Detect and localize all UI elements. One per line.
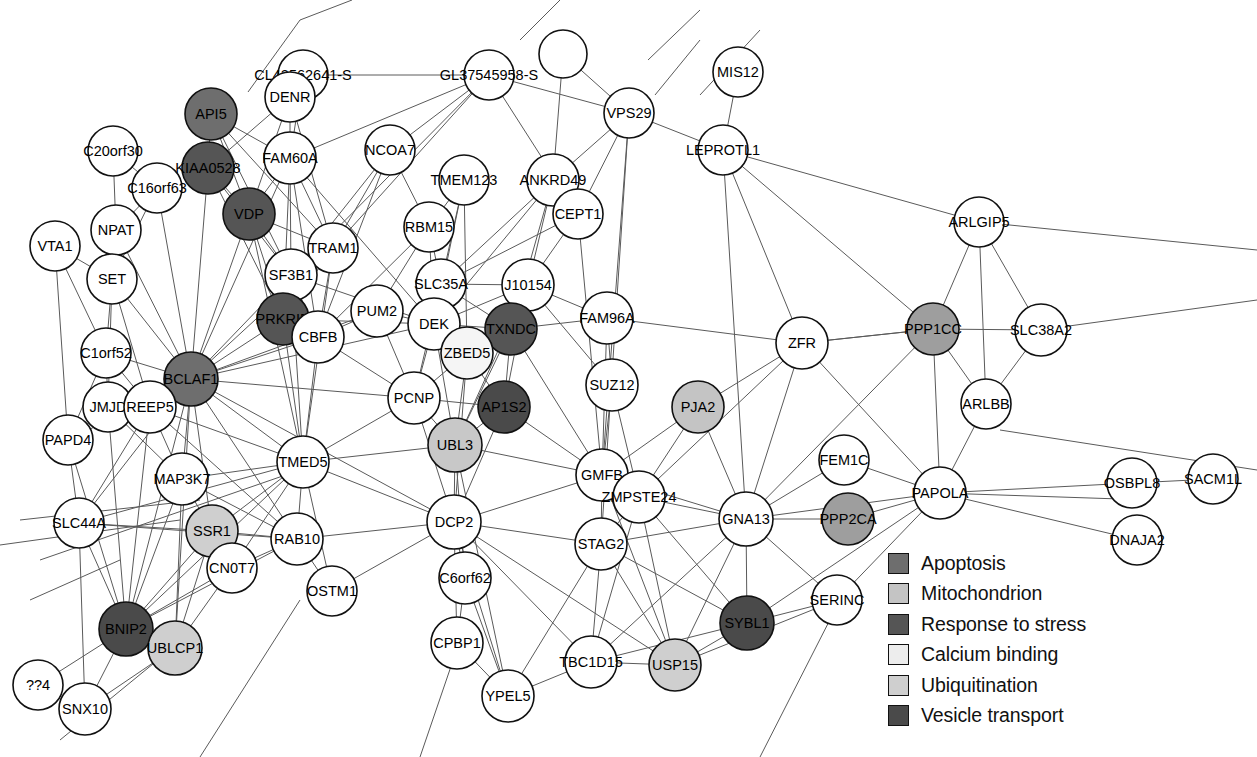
network-node[interactable]: PCNP bbox=[388, 372, 440, 424]
node-label: OSTM1 bbox=[307, 583, 357, 599]
network-node[interactable]: YPEL5 bbox=[482, 670, 534, 722]
network-figure: CL42562641-SDENRGL37545958-SMIS12VPS29AP… bbox=[0, 0, 1257, 757]
node-label: UBL3 bbox=[437, 437, 473, 453]
network-node[interactable]: VDP bbox=[223, 188, 275, 240]
network-node[interactable]: TBC1D15 bbox=[559, 636, 623, 688]
network-node[interactable]: PJA2 bbox=[672, 381, 724, 433]
network-node[interactable]: GNA13 bbox=[719, 492, 773, 546]
node-label: JMJD bbox=[89, 399, 126, 415]
network-node[interactable]: VTA1 bbox=[30, 221, 80, 271]
node-label: SF3B1 bbox=[269, 267, 313, 283]
legend-item: Calcium binding bbox=[888, 640, 1128, 671]
network-node[interactable]: NPAT bbox=[91, 205, 141, 255]
node-label: RAB10 bbox=[274, 531, 320, 547]
node-label: GMFB bbox=[581, 467, 623, 483]
network-node[interactable]: UBL3 bbox=[428, 418, 482, 472]
network-node[interactable]: DCP2 bbox=[427, 495, 481, 549]
network-node[interactable]: PUM2 bbox=[351, 285, 403, 337]
node-label: SET bbox=[98, 271, 126, 287]
node-label: FAM60A bbox=[262, 150, 318, 166]
network-node[interactable]: ??4 bbox=[13, 660, 63, 710]
network-node[interactable]: TMEM123 bbox=[431, 155, 498, 205]
network-node[interactable]: SF3B1 bbox=[265, 249, 317, 301]
network-node[interactable]: C6orf62 bbox=[439, 552, 491, 604]
network-node[interactable]: FAM60A bbox=[262, 132, 318, 184]
network-node[interactable]: AP1S2 bbox=[478, 381, 530, 433]
node-label: C1orf52 bbox=[80, 345, 132, 361]
network-node[interactable]: STAG2 bbox=[575, 518, 627, 570]
network-node[interactable]: LEPROTL1 bbox=[686, 125, 760, 175]
node-label: SACM1L bbox=[1184, 471, 1242, 487]
network-node[interactable]: PPP2CA bbox=[819, 493, 877, 545]
node-label: TXNDC bbox=[486, 321, 536, 337]
node-label: BNIP2 bbox=[105, 621, 147, 637]
legend-swatch bbox=[888, 553, 909, 574]
node-label: PAPOLA bbox=[912, 485, 969, 501]
network-edge bbox=[454, 522, 675, 665]
network-node[interactable]: API5 bbox=[185, 88, 237, 140]
network-node[interactable]: SNX10 bbox=[59, 683, 111, 735]
network-node[interactable]: OSTM1 bbox=[307, 566, 357, 616]
node-label: ZMPSTE24 bbox=[602, 489, 677, 505]
legend-swatch bbox=[888, 675, 909, 696]
network-edge bbox=[55, 246, 68, 440]
network-node[interactable]: NCOA7 bbox=[365, 125, 415, 175]
network-edge bbox=[940, 493, 1137, 540]
network-node[interactable]: MIS12 bbox=[713, 47, 763, 97]
node-label: C20orf30 bbox=[83, 143, 143, 159]
network-node[interactable]: VPS29 bbox=[604, 88, 654, 138]
network-edge-partial bbox=[980, 222, 1257, 250]
network-node[interactable]: CPBP1 bbox=[431, 617, 483, 669]
network-node[interactable]: PAPOLA bbox=[912, 467, 969, 519]
node-label: STAG2 bbox=[578, 536, 624, 552]
legend-item: Vesicle transport bbox=[888, 701, 1128, 732]
network-node[interactable]: DENR bbox=[265, 72, 315, 122]
node-label: J10154 bbox=[504, 277, 552, 293]
node-label: CBFB bbox=[299, 329, 338, 345]
network-node[interactable]: USP15 bbox=[649, 639, 701, 691]
network-node[interactable]: SACM1L bbox=[1184, 454, 1242, 504]
network-node[interactable]: GL37545958-S bbox=[440, 50, 538, 100]
network-node[interactable]: OSBPL8 bbox=[1104, 458, 1160, 508]
network-node[interactable]: REEP5 bbox=[124, 381, 176, 433]
legend-item: Response to stress bbox=[888, 609, 1128, 640]
legend-item: Mitochondrion bbox=[888, 579, 1128, 610]
network-node[interactable] bbox=[539, 30, 587, 78]
network-node[interactable]: PPP1CC bbox=[904, 303, 962, 355]
network-node[interactable]: RBM15 bbox=[404, 202, 454, 252]
network-edge bbox=[746, 329, 933, 519]
node-label: VTA1 bbox=[37, 238, 72, 254]
node-label: TBC1D15 bbox=[559, 654, 623, 670]
node-label: FAM96A bbox=[579, 310, 635, 326]
network-node[interactable]: SUZ12 bbox=[586, 359, 638, 411]
network-node[interactable]: SET bbox=[87, 254, 137, 304]
node-label: YPEL5 bbox=[485, 688, 530, 704]
network-node[interactable]: ARLBB bbox=[961, 379, 1011, 429]
network-node[interactable]: ARLGIP5 bbox=[948, 197, 1009, 247]
legend-label: Calcium binding bbox=[921, 643, 1058, 666]
network-node[interactable]: UBLCP1 bbox=[147, 621, 203, 675]
node-label: BCLAF1 bbox=[164, 371, 219, 387]
network-node[interactable]: ZBED5 bbox=[441, 327, 493, 379]
node-label: KIAA0528 bbox=[175, 160, 240, 176]
network-node[interactable]: SLC44A bbox=[52, 498, 106, 548]
node-label: SLC44A bbox=[52, 515, 106, 531]
network-node[interactable]: C1orf52 bbox=[80, 328, 132, 378]
network-node[interactable]: CEPT1 bbox=[553, 189, 603, 239]
network-node[interactable]: CBFB bbox=[292, 311, 344, 363]
network-node[interactable]: SYBL1 bbox=[720, 596, 774, 650]
network-node[interactable]: FAM96A bbox=[579, 292, 635, 344]
node-label: USP15 bbox=[652, 657, 698, 673]
network-edge bbox=[723, 150, 979, 222]
network-edge bbox=[979, 222, 986, 404]
network-node[interactable]: BNIP2 bbox=[99, 602, 153, 656]
network-node[interactable]: SLC38A2 bbox=[1010, 304, 1072, 356]
node-label: OSBPL8 bbox=[1104, 475, 1160, 491]
network-node[interactable]: RAB10 bbox=[271, 513, 323, 565]
node-circle[interactable] bbox=[539, 30, 587, 78]
network-node[interactable]: PAPD4 bbox=[43, 415, 93, 465]
network-node[interactable]: TMED5 bbox=[277, 436, 329, 488]
network-node[interactable]: CN0T7 bbox=[207, 543, 257, 593]
network-node[interactable]: ZFR bbox=[776, 317, 828, 369]
network-node[interactable]: FEM1C bbox=[819, 435, 869, 485]
